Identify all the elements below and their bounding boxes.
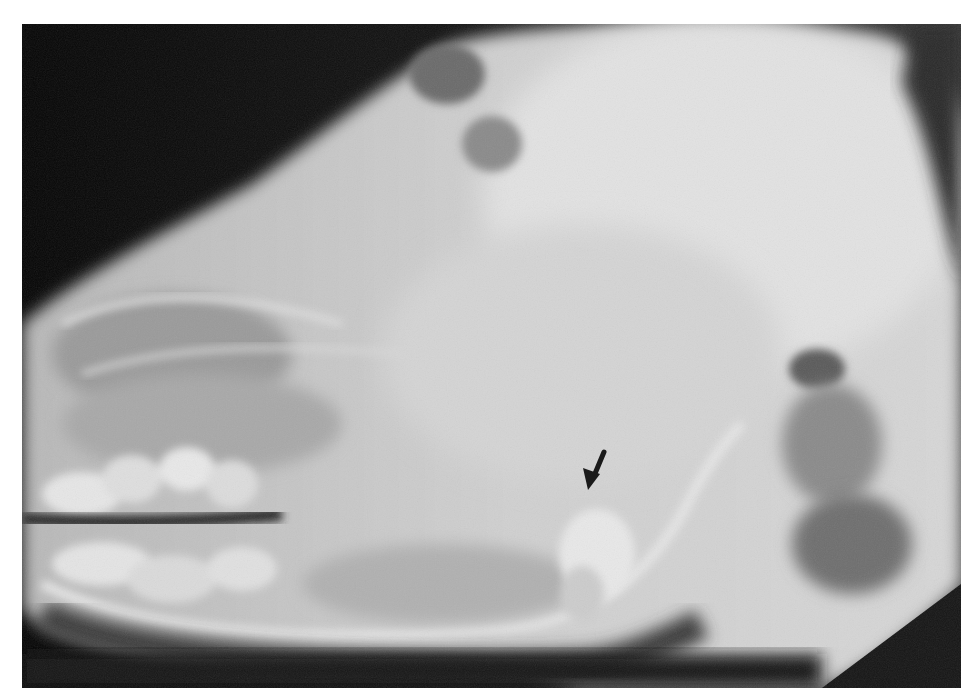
skull-radiograph [22, 24, 961, 688]
radiograph-image [22, 24, 961, 688]
radiograph-figure [0, 0, 979, 694]
